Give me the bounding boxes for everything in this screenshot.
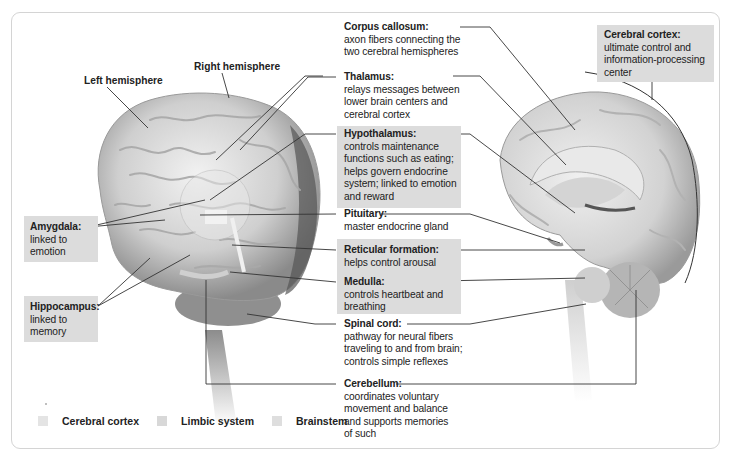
pituitary-desc: master endocrine gland [344,221,462,234]
legend-item-cerebral-cortex: Cerebral cortex [38,415,139,427]
corpus-callosum-title: Corpus callosum: [344,21,464,34]
label-hippocampus: Hippocampus: linked to memory [24,296,98,342]
right-brain-image [500,72,700,402]
reticular-formation-title: Reticular formation: [344,244,462,257]
left-hemisphere-label: Left hemisphere [84,75,163,86]
spinal-cord-title: Spinal cord: [344,318,468,331]
label-hypothalamus: Hypothalamus: controls maintenance funct… [337,126,461,208]
hypothalamus-desc: controls maintenance functions such as e… [344,141,461,204]
left-brain-image [98,93,320,425]
legend-label: Brainstem [296,415,347,427]
label-cerebellum: Cerebellum: coordinates voluntary moveme… [344,378,454,441]
spinal-cord-desc: pathway for neural fibers traveling to a… [344,331,468,369]
hypothalamus-title: Hypothalamus: [344,128,461,141]
brainstem-swatch [272,416,282,426]
cerebral-cortex-title: Cerebral cortex: [604,29,714,42]
legend-item-limbic-system: Limbic system [157,415,254,427]
medulla-desc: controls heartbeat and breathing [344,289,456,314]
label-pituitary: Pituitary: master endocrine gland [344,208,462,233]
label-reticular-formation: Reticular formation: helps control arous… [344,244,462,269]
decorative-dot [45,403,47,405]
label-spinal-cord: Spinal cord: pathway for neural fibers t… [344,318,468,368]
amygdala-desc: linked to emotion [30,234,98,259]
thalamus-title: Thalamus: [344,71,462,84]
amygdala-title: Amygdala: [30,221,98,234]
right-hemisphere-label: Right hemisphere [194,61,280,72]
legend-item-brainstem: Brainstem [272,415,347,427]
hippocampus-desc: linked to memory [30,314,98,339]
cerebral-cortex-desc: ultimate control and information-process… [604,42,714,80]
label-amygdala: Amygdala: linked to emotion [24,216,98,262]
label-medulla: Medulla: controls heartbeat and breathin… [344,276,456,314]
thalamus-desc: relays messages between lower brain cent… [344,84,462,122]
medulla-title: Medulla: [344,276,456,289]
limbic-system-swatch [157,416,167,426]
pituitary-title: Pituitary: [344,208,462,221]
corpus-callosum-desc: axon fibers connecting the two cerebral … [344,34,464,59]
label-cerebral-cortex: Cerebral cortex: ultimate control and in… [597,25,714,82]
cerebellum-title: Cerebellum: [344,378,454,391]
label-thalamus: Thalamus: relays messages between lower … [344,71,462,121]
reticular-formation-desc: helps control arousal [344,257,462,270]
cerebral-cortex-swatch [38,416,48,426]
hippocampus-title: Hippocampus: [30,301,98,314]
legend: Cerebral cortex Limbic system Brainstem [38,415,365,427]
legend-label: Cerebral cortex [62,415,139,427]
legend-label: Limbic system [181,415,254,427]
label-corpus-callosum: Corpus callosum: axon fibers connecting … [344,21,464,59]
